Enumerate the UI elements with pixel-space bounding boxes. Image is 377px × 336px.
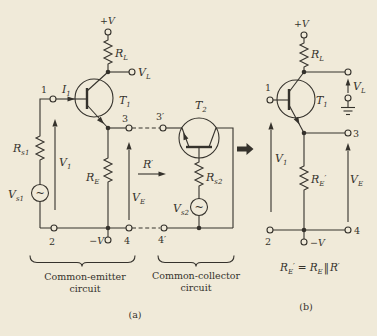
cc-rs2-label: Rs2 (205, 171, 223, 186)
b-node3-terminal (345, 130, 351, 136)
b-plus-v-label: +V (294, 18, 310, 29)
equivalence-arrow-icon (237, 143, 254, 155)
a-minus-v-label: −V (89, 235, 105, 246)
b-t1-collector-lead (289, 72, 304, 92)
a-rl-label: RL (114, 47, 128, 62)
caption-common-collector-line1: Common-collector (152, 270, 241, 281)
a-t1-label: T1 (119, 94, 131, 109)
b-re-prime-label: RE′ (310, 173, 326, 188)
a-node3-terminal (126, 125, 132, 131)
cc-node4p-label: 4′ (158, 234, 166, 245)
cc-rail-junction-dot (197, 226, 202, 231)
cc-t2-label: T2 (195, 99, 207, 114)
caption-common-emitter-line2: circuit (69, 283, 100, 294)
b-t1-label: T1 (316, 94, 328, 109)
a-plus-v-terminal (105, 29, 111, 35)
a-v1-label: V1 (59, 156, 71, 171)
caption-common-emitter-group: Common-emitter circuit (30, 256, 135, 294)
caption-common-collector-group: Common-collector circuit (152, 256, 241, 293)
cc-t2-collector-lead (209, 128, 216, 147)
common-emitter-brace (30, 256, 135, 267)
a-v1-arrow-icon (52, 119, 57, 127)
cc-vs2-tilde-icon: ~ (194, 201, 203, 214)
a-plus-v-label: +V (100, 15, 116, 26)
a-node2-label: 2 (49, 236, 55, 247)
circuit-b-equivalent: +V RL VL T1 1 3 (265, 18, 366, 312)
a-vs1-tilde-icon: ~ (35, 187, 44, 200)
a-node2-terminal (51, 225, 57, 231)
b-t1-body-circle (277, 80, 315, 118)
common-collector-brace (158, 256, 234, 267)
b-minus-v-label: −V (310, 237, 326, 248)
a-rs1-resistor (36, 99, 50, 185)
circuit-a-common-emitter: +V RL VL T1 I1 1 Rs1 ~ Vs1 (8, 15, 166, 247)
equation-re-prime: RE′=RE‖R′ (279, 261, 340, 276)
b-node3-label: 3 (353, 128, 359, 139)
b-node1-terminal (267, 97, 273, 103)
label-sub-a: (a) (128, 309, 141, 320)
a-re-label: RE (85, 171, 99, 186)
b-vl-arrow-icon (346, 79, 351, 86)
b-re-prime-resistor (300, 133, 308, 230)
cc-vs2-label: Vs2 (173, 202, 190, 217)
a-node3-label: 3 (122, 113, 128, 124)
a-ve-label: VE (132, 191, 145, 206)
b-vl-top-terminal (345, 69, 351, 75)
figure-canvas: +V RL VL T1 I1 1 Rs1 ~ Vs1 (0, 0, 377, 336)
b-v1-arrow-icon (268, 122, 273, 130)
label-sub-b: (b) (299, 301, 313, 312)
b-node4-label: 4 (354, 225, 360, 236)
b-node2-label: 2 (265, 236, 271, 247)
b-vl-ground-terminal (345, 95, 351, 101)
cc-t2-emitter-arrow-icon (183, 132, 188, 140)
cc-node3p-terminal (160, 125, 166, 131)
a-re-resistor (104, 128, 112, 228)
a-node4-terminal (126, 225, 132, 231)
caption-common-collector-line2: circuit (180, 282, 211, 293)
caption-common-emitter-line1: Common-emitter (44, 271, 126, 282)
a-vl-label: VL (138, 66, 151, 81)
a-minus-v-terminal (105, 237, 111, 243)
b-minus-v-terminal (301, 239, 307, 245)
a-ve-arrow-icon (126, 142, 131, 150)
a-rprime-arrow-icon (159, 171, 167, 176)
a-vs1-label: Vs1 (8, 188, 24, 203)
a-rprime-label: R′ (142, 158, 153, 171)
b-v1-label: V1 (275, 152, 287, 167)
a-node1-label: 1 (41, 84, 47, 95)
a-node4-label: 4 (124, 235, 130, 246)
b-transistor-t1: T1 (277, 72, 328, 133)
circuit-a-common-collector: 3′ T2 Rs2 ~ Vs2 4′ (156, 99, 233, 245)
cc-rs2-resistor (195, 147, 203, 199)
b-rl-label: RL (310, 48, 324, 63)
a-rs1-label: Rs1 (12, 142, 29, 157)
circuit-diagram: +V RL VL T1 I1 1 Rs1 ~ Vs1 (0, 0, 377, 336)
b-ground-icon (341, 108, 355, 115)
b-node2-terminal (267, 227, 273, 233)
b-rl-resistor (300, 38, 308, 72)
a-t1-collector-lead (87, 72, 108, 91)
b-ve-label: VE (350, 173, 363, 188)
b-node4-terminal (345, 227, 351, 233)
b-node1-label: 1 (265, 82, 271, 93)
cc-node4p-terminal (161, 225, 167, 231)
a-node1-terminal (50, 96, 56, 102)
b-ve-arrow-icon (345, 143, 350, 151)
b-vl-label: VL (353, 80, 366, 95)
b-plus-v-terminal (301, 32, 307, 38)
cc-node3p-label: 3′ (156, 111, 164, 122)
a-rl-resistor (104, 35, 112, 72)
a-vl-terminal (129, 69, 135, 75)
a-i1-label: I1 (61, 83, 71, 98)
